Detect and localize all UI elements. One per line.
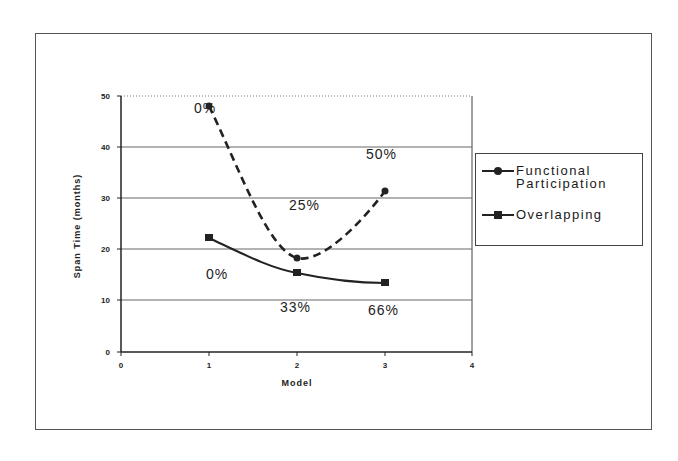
x-tick-label: 4 <box>470 361 475 370</box>
legend-label: Functional Participation <box>516 164 607 190</box>
annotation-fp-model-2: 25% <box>289 197 320 213</box>
x-tick-label: 1 <box>207 361 212 370</box>
legend-label: Overlapping <box>516 208 603 221</box>
y-axis-title: Span Time (months) <box>72 174 82 278</box>
annotation-ov-model-2: 33% <box>280 299 311 315</box>
legend-item-functional-participation: Functional Participation <box>482 164 607 190</box>
x-tick-label: 3 <box>383 361 388 370</box>
legend-item-overlapping: Overlapping <box>482 208 603 222</box>
y-tick-label: 0 <box>106 348 111 357</box>
y-tick-label: 40 <box>101 143 110 152</box>
legend-label-line: Overlapping <box>516 208 603 221</box>
y-tick-label: 50 <box>101 92 110 101</box>
legend-label-line: Participation <box>516 177 607 190</box>
x-axis-title: Model <box>282 378 313 388</box>
legend: Functional Participation Overlapping <box>475 153 643 246</box>
annotation-ov-model-1: 0% <box>206 266 228 282</box>
annotation-fp-model-1: 0% <box>194 100 216 116</box>
x-tick-label: 0 <box>119 361 124 370</box>
y-tick-label: 30 <box>101 194 110 203</box>
y-tick-label: 10 <box>101 296 110 305</box>
x-tick-label: 2 <box>295 361 300 370</box>
y-tick-label: 20 <box>101 245 110 254</box>
circle-marker-icon <box>482 164 514 178</box>
annotation-fp-model-3: 50% <box>366 146 397 162</box>
series-functional-participation-line <box>209 106 385 259</box>
annotation-ov-model-3: 66% <box>368 302 399 318</box>
gridlines <box>121 147 472 300</box>
square-marker-icon <box>482 208 514 222</box>
series-functional-participation-markers <box>206 103 389 262</box>
